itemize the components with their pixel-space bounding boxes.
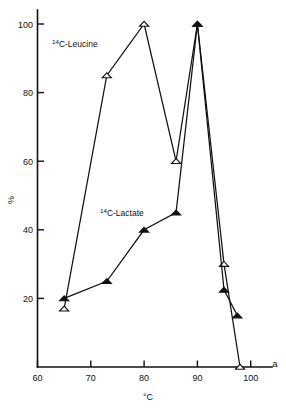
y-tick-label-20: 20 [23, 294, 33, 304]
panel-label: a [272, 358, 278, 369]
data-point-lactate [102, 279, 111, 284]
y-tick-label-40: 40 [23, 225, 33, 235]
y-axis-tick-labels: 100 80 60 40 20 [18, 20, 33, 304]
data-point-leucine [171, 159, 180, 164]
series-label-leucine-text: C-Leucine [59, 39, 98, 49]
x-tick-label-100: 100 [243, 373, 258, 383]
data-point-leucine [139, 21, 148, 26]
data-point-lactate [193, 21, 202, 26]
data-point-leucine [60, 306, 69, 311]
y-tick-label-100: 100 [18, 20, 33, 30]
line-chart: 100 80 60 40 20 % 60 70 80 90 100 °C a [0, 0, 286, 417]
y-tick-label-60: 60 [23, 157, 33, 167]
data-point-lactate [233, 313, 242, 318]
series-label-lactate-text: C-Lactate [107, 208, 144, 218]
x-axis-ticks [38, 361, 251, 368]
x-tick-label-80: 80 [139, 373, 149, 383]
y-axis-title: % [6, 196, 16, 204]
series-label-lactate: 14C-Lactate [100, 207, 144, 219]
data-point-leucine [102, 73, 111, 78]
series-label-leucine: 14C-Leucine [52, 38, 98, 50]
series-lactate [60, 21, 242, 317]
series-lactate-markers [60, 21, 242, 317]
x-tick-label-90: 90 [192, 373, 202, 383]
x-axis-tick-labels: 60 70 80 90 100 [32, 373, 258, 383]
figure-panel: 100 80 60 40 20 % 60 70 80 90 100 °C a [0, 0, 286, 417]
y-axis-ticks [38, 24, 45, 298]
y-tick-label-80: 80 [23, 88, 33, 98]
x-axis-title: °C [143, 392, 154, 402]
series-leucine-line [64, 24, 240, 367]
x-tick-label-70: 70 [86, 373, 96, 383]
x-tick-label-60: 60 [32, 373, 42, 383]
data-point-lactate [171, 210, 180, 215]
series-leucine [60, 21, 245, 369]
